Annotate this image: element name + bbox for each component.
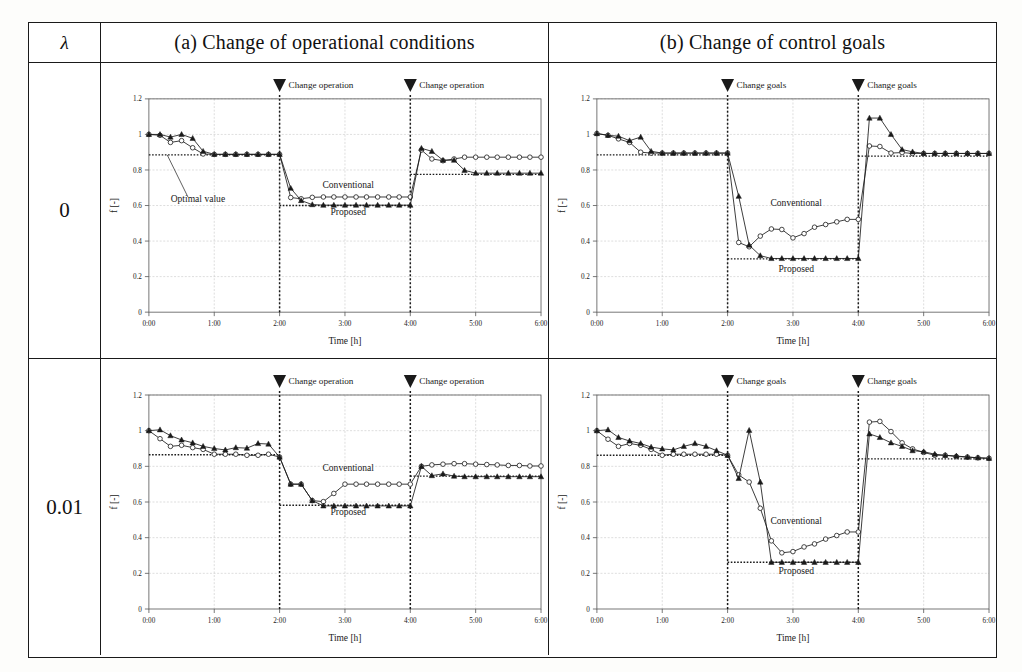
annotation-leader-line bbox=[167, 155, 188, 197]
annotation-label: Proposed bbox=[330, 206, 366, 217]
data-point bbox=[867, 420, 872, 425]
svg-text:0.4: 0.4 bbox=[133, 238, 142, 246]
svg-text:0.2: 0.2 bbox=[133, 273, 142, 281]
chart-b0: 00.20.40.60.811.20:001:002:003:004:005:0… bbox=[549, 63, 996, 358]
data-point bbox=[343, 195, 348, 200]
data-point bbox=[878, 419, 883, 424]
x-axis-title: Time [h] bbox=[328, 336, 361, 346]
data-point bbox=[430, 157, 435, 162]
data-point bbox=[190, 445, 195, 450]
data-point bbox=[397, 195, 402, 200]
svg-text:2:00: 2:00 bbox=[721, 617, 734, 625]
figure-table: λ (a) Change of operational conditions (… bbox=[28, 22, 997, 658]
annotation: Conventional bbox=[770, 515, 822, 526]
data-point bbox=[255, 441, 260, 446]
event-triangle-icon bbox=[404, 375, 417, 388]
data-point bbox=[441, 462, 446, 467]
svg-text:4:00: 4:00 bbox=[404, 320, 417, 328]
event-label: Change goals bbox=[737, 376, 787, 386]
svg-text:4:00: 4:00 bbox=[852, 617, 865, 625]
table-row: 0 00.20.40.60.811.20:001:002:003:004:005… bbox=[29, 63, 996, 359]
svg-text:3:00: 3:00 bbox=[339, 320, 352, 328]
svg-text:1: 1 bbox=[586, 131, 590, 139]
x-axis-title: Time [h] bbox=[776, 633, 809, 643]
svg-text:0: 0 bbox=[138, 606, 142, 614]
svg-text:3:00: 3:00 bbox=[787, 320, 800, 328]
data-point bbox=[462, 155, 467, 160]
svg-text:0.6: 0.6 bbox=[581, 499, 590, 507]
data-point bbox=[452, 461, 457, 466]
data-point bbox=[605, 427, 610, 432]
svg-text:2:00: 2:00 bbox=[273, 320, 286, 328]
data-point bbox=[343, 482, 348, 487]
annotation: Proposed bbox=[330, 506, 366, 517]
data-point bbox=[190, 145, 195, 150]
annotation-label: Conventional bbox=[770, 515, 822, 526]
svg-text:0: 0 bbox=[138, 309, 142, 317]
data-point bbox=[386, 482, 391, 487]
chart-b001: 00.20.40.60.811.20:001:002:003:004:005:0… bbox=[549, 359, 996, 655]
annotation: Proposed bbox=[330, 206, 366, 217]
data-point bbox=[484, 462, 489, 467]
svg-text:1: 1 bbox=[138, 131, 142, 139]
data-point bbox=[758, 479, 763, 484]
svg-text:f [-]: f [-] bbox=[109, 494, 119, 509]
plot-a001: 00.20.40.60.811.20:001:002:003:004:005:0… bbox=[101, 359, 548, 655]
annotation-label: Conventional bbox=[322, 179, 374, 190]
data-point bbox=[484, 155, 489, 160]
plot-a0: 00.20.40.60.811.20:001:002:003:004:005:0… bbox=[101, 63, 548, 358]
event-label: Change operation bbox=[289, 376, 354, 386]
data-point bbox=[233, 445, 238, 450]
svg-text:0: 0 bbox=[586, 606, 590, 614]
data-point bbox=[354, 195, 359, 200]
svg-text:0.2: 0.2 bbox=[581, 273, 590, 281]
svg-text:0.8: 0.8 bbox=[133, 463, 142, 471]
annotation: Proposed bbox=[778, 263, 814, 274]
svg-text:f [-]: f [-] bbox=[557, 198, 567, 213]
event-triangle-icon bbox=[852, 375, 865, 388]
svg-text:0.6: 0.6 bbox=[581, 202, 590, 210]
event-triangle-icon bbox=[852, 79, 865, 92]
data-point bbox=[517, 463, 522, 468]
data-point bbox=[462, 461, 467, 466]
data-point bbox=[419, 145, 424, 150]
data-point bbox=[354, 482, 359, 487]
plot-b0: 00.20.40.60.811.20:001:002:003:004:005:0… bbox=[549, 63, 996, 358]
x-axis: 0:001:002:003:004:005:006:00 bbox=[591, 609, 996, 625]
data-point bbox=[364, 482, 369, 487]
svg-text:2:00: 2:00 bbox=[721, 320, 734, 328]
data-point bbox=[332, 195, 337, 200]
event-marker: Change operation bbox=[404, 375, 485, 609]
svg-text:3:00: 3:00 bbox=[339, 617, 352, 625]
svg-text:1: 1 bbox=[586, 427, 590, 435]
y-axis-title: f [-] bbox=[109, 198, 119, 213]
plot-b001: 00.20.40.60.811.20:001:002:003:004:005:0… bbox=[549, 359, 996, 655]
y-axis: 00.20.40.60.811.2 bbox=[581, 95, 597, 316]
data-point bbox=[888, 440, 893, 445]
data-point bbox=[845, 217, 850, 222]
lambda-value: 0 bbox=[59, 198, 70, 223]
svg-text:6:00: 6:00 bbox=[535, 320, 548, 328]
data-point bbox=[168, 140, 173, 145]
x-axis-title: Time [h] bbox=[328, 633, 361, 643]
event-triangle-icon bbox=[404, 79, 417, 92]
svg-text:1.2: 1.2 bbox=[581, 95, 590, 103]
svg-text:0.6: 0.6 bbox=[133, 499, 142, 507]
svg-text:5:00: 5:00 bbox=[469, 320, 482, 328]
svg-text:6:00: 6:00 bbox=[983, 617, 996, 625]
data-point bbox=[179, 443, 184, 448]
header-cell-lambda: λ bbox=[29, 23, 101, 62]
y-axis-title: f [-] bbox=[557, 198, 567, 213]
data-point bbox=[638, 150, 643, 155]
row-label-lambda-0: 0 bbox=[29, 63, 101, 358]
event-marker: Change operation bbox=[404, 79, 485, 312]
svg-text:3:00: 3:00 bbox=[787, 617, 800, 625]
data-point bbox=[408, 482, 413, 487]
chart-a0: 00.20.40.60.811.20:001:002:003:004:005:0… bbox=[101, 63, 548, 358]
data-point bbox=[780, 551, 785, 556]
header-cell-column-a: (a) Change of operational conditions bbox=[101, 23, 549, 62]
data-point bbox=[245, 453, 250, 458]
svg-text:1:00: 1:00 bbox=[208, 617, 221, 625]
y-axis: 00.20.40.60.811.2 bbox=[133, 95, 149, 316]
data-point bbox=[506, 155, 511, 160]
